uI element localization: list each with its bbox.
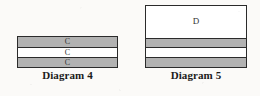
diagram-5-band-4: [146, 57, 246, 67]
diagram-5-caption: Diagram 5: [136, 70, 256, 81]
diagram-5-band-1-label: D: [193, 17, 200, 26]
diagram-4-band-2: C: [18, 47, 117, 57]
diagram-5-band-1: D: [146, 6, 246, 38]
diagram-4-band-1: C: [18, 37, 117, 47]
diagram-4-band-1-label: C: [65, 38, 71, 46]
diagram-4-rectangle: C C C: [17, 36, 118, 68]
diagram-4-band-2-label: C: [65, 49, 71, 57]
diagram-5-band-3: [146, 47, 246, 57]
diagram-4-caption: Diagram 4: [8, 70, 127, 81]
diagram-5-rectangle: D: [145, 5, 247, 68]
diagram-5-band-2: [146, 38, 246, 48]
diagram-4-band-3-label: C: [65, 59, 71, 67]
scanned-figure-canvas: C C C Diagram 4 D: [0, 0, 260, 96]
diagram-4-band-3: C: [18, 57, 117, 67]
